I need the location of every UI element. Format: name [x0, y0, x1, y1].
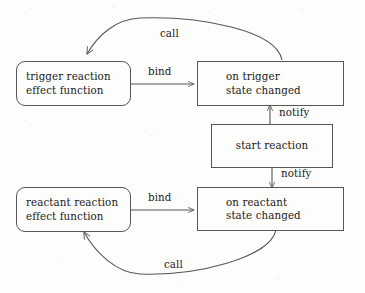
node-line-secondary: effect function [26, 84, 104, 97]
diagram-canvas: trigger reaction effect function on trig… [0, 0, 365, 293]
node-line-primary: on trigger [226, 70, 280, 83]
edge-label-notify-down: notify [281, 167, 312, 179]
node-line-secondary: effect function [26, 210, 104, 223]
node-line-secondary: state changed [226, 84, 301, 97]
node-on-trigger-state-changed[interactable]: on trigger state changed [197, 61, 344, 106]
node-trigger-reaction-effect-function[interactable]: trigger reaction effect function [16, 61, 131, 106]
node-start-reaction[interactable]: start reaction [211, 124, 333, 168]
node-reactant-reaction-effect-function[interactable]: reactant reaction effect function [16, 187, 131, 232]
node-line-secondary: state changed [226, 209, 301, 222]
edge-label-notify-up: notify [279, 106, 310, 118]
node-line-primary: on reactant [226, 196, 287, 209]
node-on-reactant-state-changed[interactable]: on reactant state changed [197, 187, 344, 231]
edge-label-bind-bottom: bind [148, 191, 172, 203]
node-line-primary: trigger reaction [26, 70, 111, 83]
node-line-primary: reactant reaction [26, 196, 118, 209]
node-line-primary: start reaction [236, 139, 308, 152]
edge-label-call-bottom: call [164, 258, 183, 270]
edge-call-top [87, 18, 282, 60]
edge-label-call-top: call [160, 27, 179, 39]
edge-label-bind-top: bind [148, 65, 172, 77]
